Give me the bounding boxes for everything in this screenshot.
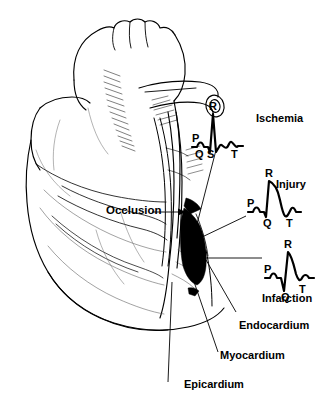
injury-r-letter: R (265, 168, 273, 179)
ischemia-r-letter: R (209, 101, 217, 112)
annotation-endocardium: Endocardium (239, 320, 309, 331)
ischemia-p-letter: P (192, 133, 199, 144)
heart-ischemia-diagram: Ischemia Injury Infarction R P Q S T R P… (0, 0, 331, 415)
injury-p-letter: P (247, 198, 254, 209)
injury-t-letter: T (286, 218, 293, 229)
infarction-q-letter: Q (281, 292, 290, 303)
condition-label-ischemia: Ischemia (256, 113, 303, 124)
annotation-myocardium: Myocardium (220, 350, 285, 361)
infarction-p-letter: P (264, 264, 271, 275)
infarction-t-letter: T (299, 284, 306, 295)
annotation-occlusion: Occlusion (106, 205, 162, 217)
condition-label-injury: Injury (276, 179, 306, 190)
ischemia-s-letter: S (207, 149, 214, 160)
ischemia-t-letter: T (231, 149, 238, 160)
infarction-r-letter: R (284, 239, 292, 250)
ischemia-q-letter: Q (195, 149, 204, 160)
injury-q-letter: Q (263, 218, 272, 229)
annotation-epicardium: Epicardium (184, 379, 244, 390)
